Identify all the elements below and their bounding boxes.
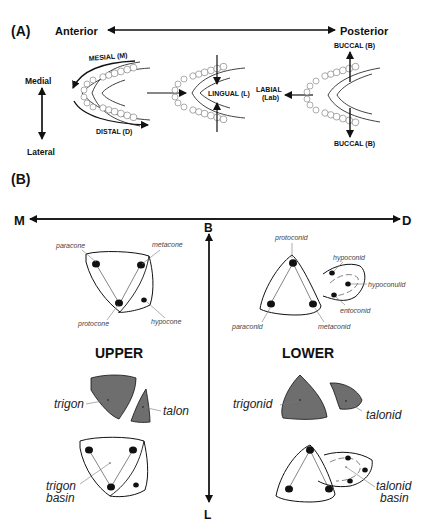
panel-b: (B) M D B L paracone metacone protocone (11, 171, 412, 522)
talonid-label: talonid (366, 408, 402, 422)
mesial-label: MESIAL (M) (88, 52, 127, 63)
distal-axis-label: D (402, 213, 411, 228)
buccal-bottom-label: BUCCAL (B) (334, 140, 375, 148)
paracone-cusp (92, 261, 100, 268)
hypoconulid-label: hypoconulid (368, 281, 406, 289)
hypocone-label: hypocone (151, 318, 181, 326)
trigonid-label: trigonid (233, 397, 273, 411)
trigon-basin-label-line2: basin (46, 491, 75, 505)
trigon-region (91, 375, 136, 419)
buccal-top-label: BUCCAL (B) (334, 42, 375, 50)
talon-label: talon (163, 404, 189, 418)
mesial-axis-label: M (14, 213, 25, 228)
upper-trigon-talon: trigon talon (54, 375, 189, 422)
lower-molar-cusps: protoconid hypoconid hypoconulid entocon… (231, 234, 406, 331)
hypoconid-cusp (329, 271, 335, 276)
talonid-basin-label-line2: basin (380, 491, 409, 505)
dental-orientation-diagram: (A) Anterior Posterior Medial Lateral ME… (0, 0, 427, 528)
paraconid-cusp (267, 300, 275, 307)
protocone-label: protocone (77, 320, 109, 328)
hypoconid-label: hypoconid (333, 254, 366, 262)
entoconid-cusp (331, 293, 337, 298)
lingual-label: LINGUAL (L) (208, 90, 250, 98)
panel-a-label: (A) (11, 23, 30, 39)
distal-label: DISTAL (D) (96, 128, 132, 136)
medial-label: Medial (25, 76, 51, 86)
panel-a: (A) Anterior Posterior Medial Lateral ME… (11, 23, 389, 157)
labial-label: LABIAL (256, 86, 282, 93)
lateral-label: Lateral (27, 147, 55, 157)
hypoconulid-cusp (345, 282, 351, 287)
metacone-label: metacone (152, 241, 183, 248)
paracone-label: paracone (55, 242, 85, 250)
posterior-label: Posterior (340, 25, 389, 37)
lower-talonid-basin: talonid basin (276, 445, 412, 505)
talon-region (131, 389, 150, 422)
protocone-cusp (115, 300, 123, 307)
lower-title: LOWER (282, 345, 334, 361)
talonid-region (330, 383, 362, 409)
anterior-label: Anterior (55, 25, 99, 37)
protoconid-label: protoconid (274, 234, 309, 242)
trigon-label: trigon (54, 397, 84, 411)
upper-title: UPPER (95, 345, 143, 361)
protoconid-cusp (289, 259, 297, 267)
upper-molar-cusps: paracone metacone protocone hypocone (55, 241, 183, 328)
jaw-buccal: BUCCAL (B) BUCCAL (B) (304, 42, 380, 148)
trigonid-region (282, 375, 327, 419)
metaconid-label: metaconid (318, 323, 351, 330)
buccal-axis-label: B (204, 221, 213, 235)
labial-abbr-label: (Lab) (262, 94, 279, 102)
jaw-mesial-distal: MESIAL (M) DISTAL (D) (73, 52, 150, 136)
upper-trigon-basin: trigon basin (46, 437, 148, 505)
hypocone-cusp (141, 298, 147, 303)
metaconid-cusp (309, 300, 317, 307)
lingual-axis-label: L (204, 508, 211, 522)
paraconid-label: paraconid (231, 323, 264, 331)
lower-trigonid-talonid: trigonid talonid (233, 375, 402, 422)
panel-b-label: (B) (11, 171, 30, 187)
entoconid-label: entoconid (340, 307, 371, 314)
